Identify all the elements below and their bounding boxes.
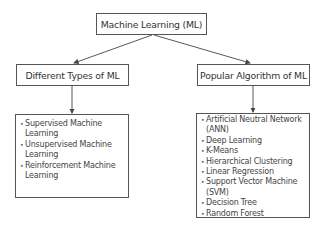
list-item: Supervised Machine Learning	[20, 119, 124, 140]
list-item: K-Means	[201, 146, 305, 156]
list-item: Artificial Neutral Network (ANN)	[201, 115, 305, 136]
list-item: Support Vector Machine (SVM)	[201, 177, 305, 198]
list-item: Deep Learning	[201, 136, 305, 146]
list-item: Decision Tree	[201, 198, 305, 208]
algorithms-list-box: Artificial Neutral Network (ANN) Deep Le…	[196, 113, 310, 218]
list-item: Hierarchical Clustering	[201, 157, 305, 167]
list-item: Random Forest	[201, 209, 305, 219]
node-popular-algorithms: Popular Algorithm of ML	[197, 64, 310, 86]
list-item: Unsupervised Machine Learning	[20, 140, 124, 161]
list-item: Linear Regression	[201, 167, 305, 177]
node-different-types: Different Types of ML	[16, 64, 129, 86]
list-item: Reinforcement Machine Learning	[20, 161, 124, 182]
root-node: Machine Learning (ML)	[96, 13, 207, 35]
types-list-box: Supervised Machine Learning Unsupervised…	[15, 114, 129, 198]
